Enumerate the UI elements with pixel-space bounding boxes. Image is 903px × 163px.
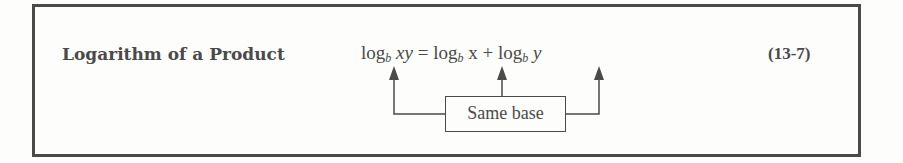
arrowhead-icon [594, 66, 604, 80]
arrowhead-icon [497, 66, 507, 80]
same-base-label: Same base [445, 96, 566, 132]
arrowhead-icon [389, 66, 399, 80]
same-base-arrows [0, 0, 903, 163]
